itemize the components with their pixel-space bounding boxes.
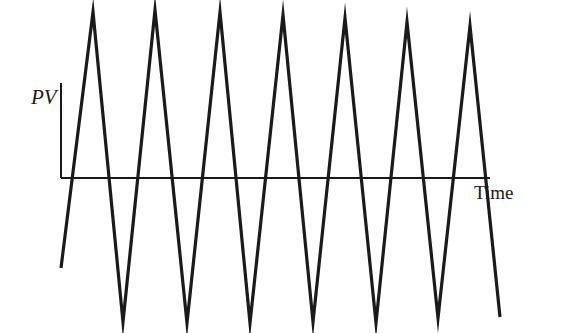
pv-oscillation-line	[61, 10, 500, 323]
y-axis-label: PV	[30, 85, 59, 109]
chart-canvas: PV Time	[0, 0, 569, 333]
x-axis-label: Time	[474, 182, 513, 203]
